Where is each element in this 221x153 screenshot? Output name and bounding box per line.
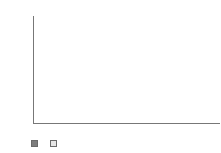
legend-swatch-women	[50, 140, 57, 147]
y-axis-label	[2, 40, 16, 120]
x-axis	[33, 123, 220, 124]
legend-swatch-men	[31, 140, 38, 147]
bar-chart	[0, 0, 221, 153]
legend	[31, 140, 60, 147]
y-axis	[33, 16, 34, 123]
